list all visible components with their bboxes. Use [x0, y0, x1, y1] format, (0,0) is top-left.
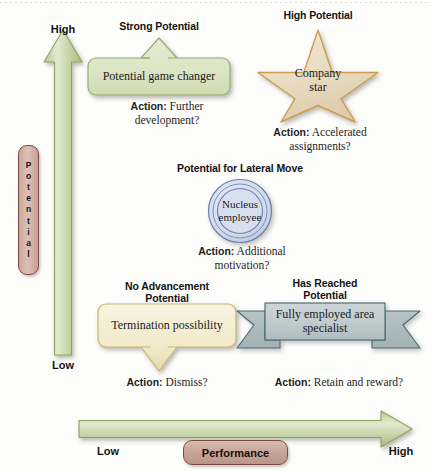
action-lateral-move: Action: Additional motivation?	[178, 245, 306, 272]
shape-fully-employed-ribbon	[237, 303, 420, 348]
heading-potential-for-lateral-move: Potential for Lateral Move	[168, 162, 312, 174]
potential-letter-0: P	[26, 160, 32, 171]
potential-letter-4: n	[26, 204, 31, 215]
action-has-reached-potential: Action: Retain and reward?	[253, 376, 425, 390]
potential-axis-arrow	[44, 30, 82, 355]
action-prefix: Action:	[198, 245, 234, 257]
heading-strong-potential: Strong Potential	[89, 20, 229, 32]
heading-has-reached-potential: Has Reached Potential	[278, 277, 372, 302]
performance-axis-pill: Performance	[183, 440, 288, 465]
shape-company-star	[258, 30, 378, 122]
action-prefix: Action:	[131, 100, 167, 112]
potential-performance-matrix: Potential game changer Company star Nucl…	[0, 0, 431, 471]
potential-axis-pill: P o t e n t i a l	[18, 145, 39, 275]
action-strong-potential: Action: Further development?	[97, 100, 237, 127]
axis-label-performance-high: High	[378, 445, 424, 458]
action-prefix: Action:	[275, 376, 311, 388]
potential-letter-5: t	[27, 216, 30, 227]
action-text: Dismiss?	[163, 376, 208, 388]
potential-letter-2: t	[27, 182, 30, 193]
potential-letter-1: o	[26, 171, 31, 182]
potential-letter-8: l	[27, 249, 29, 260]
shape-nucleus-circles	[209, 180, 272, 243]
heading-no-advancement-potential: No Advancement Potential	[103, 280, 231, 305]
action-no-advancement: Action: Dismiss?	[99, 376, 235, 390]
shape-potential-game-changer	[88, 38, 230, 95]
shape-termination-possibility	[98, 304, 236, 371]
potential-letter-3: e	[26, 193, 31, 204]
action-prefix: Action:	[126, 376, 162, 388]
axis-label-potential-high: High	[38, 23, 88, 36]
shape-layer	[0, 0, 431, 471]
potential-letter-7: a	[26, 238, 31, 249]
action-prefix: Action:	[273, 126, 309, 138]
action-high-potential: Action: Accelerated assignments?	[256, 126, 384, 153]
axis-label-performance-low: Low	[85, 445, 131, 458]
action-text: Retain and reward?	[311, 376, 403, 388]
axis-label-potential-low: Low	[38, 359, 88, 372]
heading-high-potential: High Potential	[258, 9, 378, 21]
potential-letter-6: i	[27, 227, 29, 238]
